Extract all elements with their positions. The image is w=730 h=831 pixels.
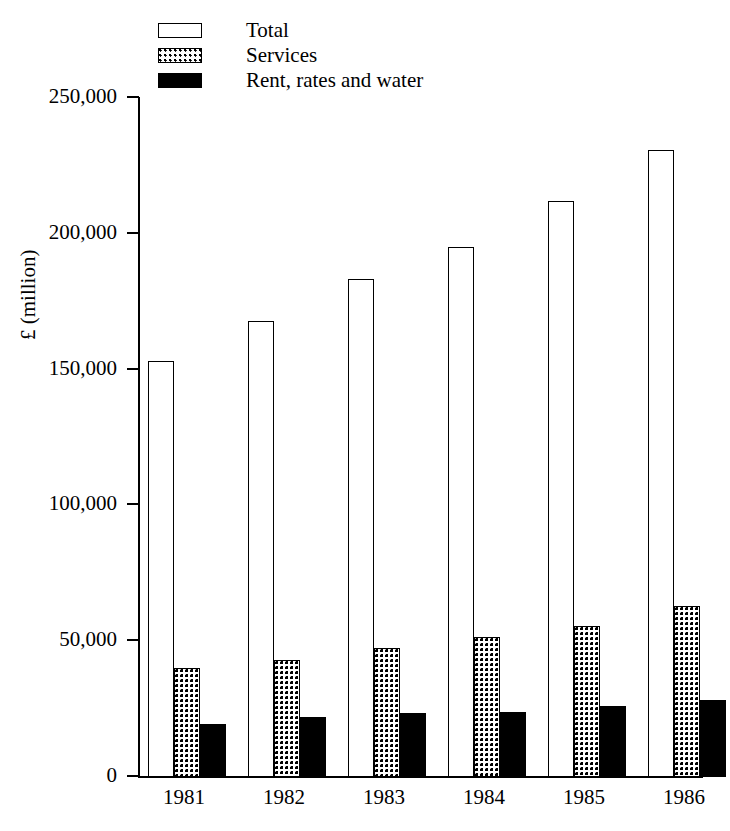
bar-rent-1983 [400, 713, 426, 777]
bar-total-1981 [148, 361, 174, 777]
bar-group-1982: 1982 [234, 97, 334, 777]
chart-legend: Total Services Rent, rates and water [158, 18, 488, 93]
bar-group-1985: 1985 [534, 97, 634, 777]
bar-rent-1986 [700, 700, 726, 777]
legend-item-services: Services [158, 43, 488, 68]
x-tick-label-1983: 1983 [334, 787, 434, 808]
bar-rent-1984 [500, 712, 526, 777]
bar-services-1982 [274, 660, 300, 777]
bar-total-1985 [548, 201, 574, 777]
x-tick-label-1986: 1986 [634, 787, 730, 808]
bar-group-1981: 1981 [134, 97, 234, 777]
bar-group-1986: 1986 [634, 97, 730, 777]
y-tick-label: 250,000 [49, 86, 117, 107]
legend-label-total: Total [246, 20, 289, 41]
y-tick-label: 150,000 [49, 358, 117, 379]
legend-swatch-services-icon [158, 48, 202, 63]
bar-total-1984 [448, 247, 474, 777]
legend-swatch-rent-icon [158, 73, 202, 88]
bar-rent-1982 [300, 717, 326, 777]
bar-services-1981 [174, 668, 200, 777]
bar-group-1984: 1984 [434, 97, 534, 777]
legend-item-rent: Rent, rates and water [158, 68, 488, 93]
plot-area: 050,000100,000150,000200,000250,000 1981… [138, 97, 703, 777]
bar-rent-1985 [600, 706, 626, 777]
y-tick-label: 100,000 [49, 493, 117, 514]
legend-swatch-total-icon [158, 23, 202, 38]
x-tick-label-1982: 1982 [234, 787, 334, 808]
legend-label-services: Services [246, 45, 317, 66]
bar-group-1983: 1983 [334, 97, 434, 777]
y-tick-labels: 050,000100,000150,000200,000250,000 [0, 97, 117, 778]
x-tick-label-1985: 1985 [534, 787, 634, 808]
y-tick-label: 50,000 [59, 629, 117, 650]
bar-services-1983 [374, 648, 400, 777]
bar-total-1983 [348, 279, 374, 777]
bar-rent-1981 [200, 724, 226, 777]
x-tick-label-1981: 1981 [134, 787, 234, 808]
y-tick-label: 0 [107, 765, 118, 786]
bar-total-1986 [648, 150, 674, 777]
y-tick-label: 200,000 [49, 222, 117, 243]
legend-item-total: Total [158, 18, 488, 43]
bar-services-1986 [674, 606, 700, 777]
bar-total-1982 [248, 321, 274, 777]
bar-services-1985 [574, 626, 600, 777]
legend-label-rent: Rent, rates and water [246, 70, 423, 91]
bar-groups: 198119821983198419851986 [140, 97, 703, 777]
bar-services-1984 [474, 637, 500, 777]
x-tick-label-1984: 1984 [434, 787, 534, 808]
